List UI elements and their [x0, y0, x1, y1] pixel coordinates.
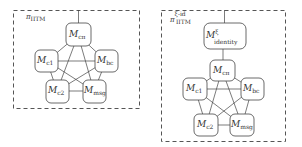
right-title-sub: IITM — [176, 18, 191, 25]
svg-text:identity: identity — [214, 38, 238, 46]
left-node-c-pi: Mcπ — [66, 23, 91, 46]
left-node-c2: Mc2 — [46, 80, 69, 103]
left-title: πIITM — [25, 13, 46, 22]
right-diagram: πξ-id IITM Mξ identity Mcπ — [162, 10, 286, 142]
right-node-msg: Mmsg — [230, 114, 254, 136]
left-node-msg: Mmsg — [83, 80, 106, 103]
left-node-c1: Mc1 — [35, 50, 58, 72]
right-node-identity: Mξ identity — [204, 23, 246, 49]
right-node-c2: Mc2 — [194, 114, 218, 136]
left-diagram: πIITM Mcπ Mc1 Mbc — [14, 10, 140, 109]
diagram-canvas: πIITM Mcπ Mc1 Mbc — [0, 0, 302, 147]
right-node-c-pi: Mcπ — [210, 60, 235, 81]
right-node-c1: Mc1 — [183, 78, 207, 100]
left-node-bc: Mbc — [95, 50, 118, 72]
right-node-bc: Mbc — [241, 78, 264, 100]
